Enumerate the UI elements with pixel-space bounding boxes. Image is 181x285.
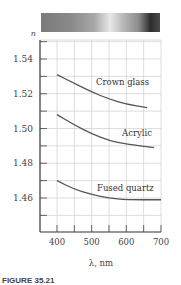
y-axis-label: n bbox=[31, 29, 36, 38]
y-tick-label: 1.48 bbox=[13, 158, 33, 168]
label-crown-glass: Crown glass bbox=[96, 77, 149, 87]
x-axis-label: λ, nm bbox=[89, 258, 113, 268]
y-tick-labels: 1.541.521.501.481.46 bbox=[13, 54, 33, 203]
y-tick-label: 1.54 bbox=[13, 54, 33, 64]
y-tick-label: 1.50 bbox=[13, 124, 33, 134]
x-tick-label: 500 bbox=[84, 237, 100, 247]
label-fused-quartz: Fused quartz bbox=[97, 183, 154, 193]
x-tick-label: 700 bbox=[153, 237, 169, 247]
label-acrylic: Acrylic bbox=[121, 128, 152, 138]
y-tick-label: 1.46 bbox=[13, 193, 33, 203]
figure-caption: FIGURE 35.21 bbox=[2, 276, 54, 285]
y-tick-label: 1.52 bbox=[13, 89, 33, 99]
x-tick-label: 600 bbox=[118, 237, 134, 247]
x-tick-labels: 400500600700 bbox=[49, 237, 169, 247]
x-tick-label: 400 bbox=[49, 237, 65, 247]
